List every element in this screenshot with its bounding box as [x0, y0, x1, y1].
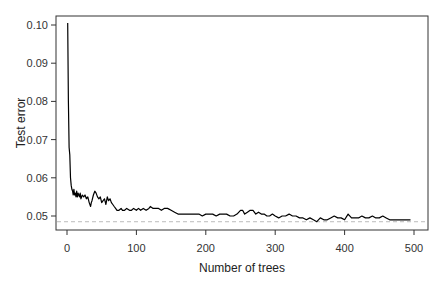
x-tick-label: 500 [405, 242, 423, 254]
x-axis: 0100200300400500 [64, 230, 423, 254]
x-tick-label: 300 [266, 242, 284, 254]
x-tick-label: 200 [197, 242, 215, 254]
y-axis-label: Test error [14, 98, 28, 149]
y-tick-label: 0.09 [27, 57, 48, 69]
y-tick-label: 0.07 [27, 134, 48, 146]
plot-frame [56, 16, 428, 230]
y-tick-label: 0.10 [27, 19, 48, 31]
line-chart: 0100200300400500 0.050.060.070.080.090.1… [0, 0, 442, 286]
x-axis-label: Number of trees [199, 261, 285, 275]
x-tick-label: 100 [127, 242, 145, 254]
test-error-line [68, 23, 411, 222]
y-tick-label: 0.05 [27, 210, 48, 222]
x-tick-label: 0 [64, 242, 70, 254]
y-tick-label: 0.08 [27, 95, 48, 107]
x-tick-label: 400 [335, 242, 353, 254]
y-tick-label: 0.06 [27, 172, 48, 184]
y-axis: 0.050.060.070.080.090.10 [27, 19, 56, 222]
